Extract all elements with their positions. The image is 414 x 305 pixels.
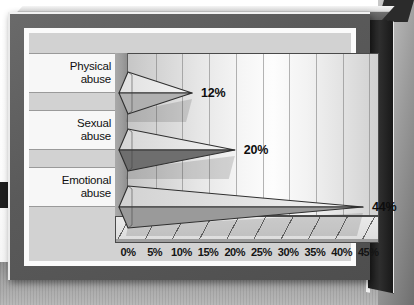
x-tick-label: 15% [198,246,219,258]
category-band [29,167,115,207]
x-tick-label: 40% [331,246,352,258]
category-label-line: Emotional [31,174,111,187]
x-tick-label: 0% [120,246,135,258]
data-value-label: 44% [372,200,396,214]
category-label-line: Physical [31,60,111,73]
category-label-line: abuse [31,73,111,86]
category-label-emotional: Emotional abuse [31,174,111,199]
data-value-label: 12% [201,86,225,100]
cone-top-facet [119,129,235,150]
category-label-sexual: Sexual abuse [31,117,111,142]
cone-bar [115,121,247,179]
x-tick-label: 45% [358,246,379,258]
cone-bar [115,178,375,236]
x-axis-ticks: 0%5%10%15%20%25%30%35%40%45% [115,246,379,264]
category-label-line: abuse [31,130,111,143]
data-value-label: 20% [244,143,268,157]
chart-mat: Physical abuse Sexual abuse Emotional ab… [24,28,356,266]
floor-front-lip [116,239,378,242]
chart-screenshot: Physical abuse Sexual abuse Emotional ab… [0,0,414,305]
x-tick-label: 30% [278,246,299,258]
x-tick-label: 35% [304,246,325,258]
chart-card: Physical abuse Sexual abuse Emotional ab… [29,33,351,261]
x-tick-label: 25% [251,246,272,258]
cone-bar [115,64,204,122]
category-label-line: abuse [31,187,111,200]
x-tick-label: 10% [171,246,192,258]
cone-top-facet [119,186,363,207]
category-label-physical: Physical abuse [31,60,111,85]
chart-frame: Physical abuse Sexual abuse Emotional ab… [8,12,370,280]
cone-top-facet [119,72,192,93]
x-tick-label: 20% [224,246,245,258]
category-band [29,53,115,93]
x-tick-label: 5% [147,246,162,258]
category-band [29,110,115,150]
category-label-line: Sexual [31,117,111,130]
